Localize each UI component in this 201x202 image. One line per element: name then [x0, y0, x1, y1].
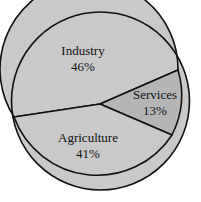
- slice-value-agriculture: 41%: [76, 146, 100, 161]
- slice-label-services: Services: [133, 87, 177, 102]
- pie-chart: Industry 46% Services 13% Agriculture 41…: [0, 0, 201, 202]
- slice-value-services: 13%: [143, 103, 167, 118]
- slice-label-industry: Industry: [61, 43, 105, 58]
- slice-label-agriculture: Agriculture: [58, 130, 118, 145]
- pie-chart-canvas: Industry 46% Services 13% Agriculture 41…: [0, 0, 201, 202]
- slice-value-industry: 46%: [71, 59, 95, 74]
